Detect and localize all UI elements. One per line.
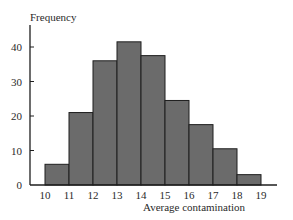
histogram-bar xyxy=(45,164,69,185)
y-tick-label: 20 xyxy=(11,110,23,122)
histogram-bar xyxy=(117,42,141,185)
x-tick-label: 16 xyxy=(184,189,196,201)
x-tick-label: 13 xyxy=(112,189,124,201)
histogram-bar xyxy=(165,100,189,185)
histogram-bar xyxy=(237,175,261,185)
y-axis-label: Frequency xyxy=(30,11,77,23)
y-tick-label: 40 xyxy=(11,41,23,53)
histogram-bar xyxy=(69,113,93,185)
x-tick-label: 19 xyxy=(256,189,268,201)
y-tick-label: 10 xyxy=(11,145,23,157)
x-axis-label: Average contamination xyxy=(143,201,246,213)
histogram-bar xyxy=(93,61,117,185)
x-tick-label: 15 xyxy=(160,189,172,201)
x-tick-label: 14 xyxy=(136,189,148,201)
x-tick-label: 11 xyxy=(64,189,75,201)
x-tick-label: 12 xyxy=(88,189,99,201)
histogram-bar xyxy=(213,149,237,185)
histogram-bar xyxy=(189,125,213,185)
histogram-bars xyxy=(45,42,261,185)
histogram-bar xyxy=(141,56,165,185)
y-tick-label: 0 xyxy=(17,179,23,191)
x-tick-label: 17 xyxy=(208,189,220,201)
x-tick-label: 18 xyxy=(232,189,244,201)
y-tick-label: 30 xyxy=(11,76,23,88)
histogram-chart: 010203040 10111213141516171819 Frequency… xyxy=(0,0,293,220)
x-tick-label: 10 xyxy=(40,189,52,201)
x-axis-ticks: 10111213141516171819 xyxy=(40,189,268,201)
